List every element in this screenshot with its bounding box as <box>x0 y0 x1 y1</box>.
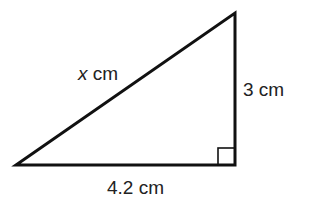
base-leg-label: 4.2 cm <box>107 178 164 197</box>
triangle-outline <box>16 13 235 165</box>
diagram-canvas: x cm 3 cm 4.2 cm <box>0 0 309 210</box>
hypotenuse-variable: x <box>78 63 88 84</box>
hypotenuse-label: x cm <box>78 64 118 83</box>
hypotenuse-unit: cm <box>88 63 119 84</box>
vertical-leg-label: 3 cm <box>243 80 284 99</box>
right-angle-marker <box>218 148 235 165</box>
